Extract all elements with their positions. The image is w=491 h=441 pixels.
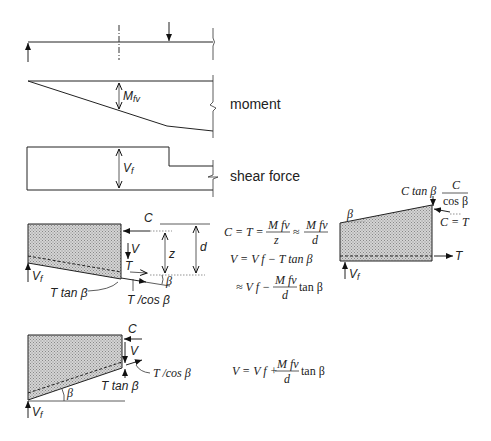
- beta-arc: [62, 389, 64, 401]
- leader-T-tan: [88, 282, 118, 291]
- eq3-den: d: [282, 288, 289, 302]
- label-cos-beta: cos β: [443, 194, 468, 208]
- label-C: C: [144, 211, 153, 225]
- beta-arc: [162, 275, 163, 284]
- eq3-right: tan β: [299, 280, 323, 294]
- shear-diagram: Vf shear force: [27, 147, 300, 197]
- beam-diagram: [28, 22, 215, 62]
- eq1-den2: d: [312, 233, 319, 247]
- C-arrow: [434, 209, 450, 212]
- label-C-eq-T: C = T: [440, 215, 470, 229]
- free-body-section-1: C V T z d β Vf T tan β T /cos β: [28, 211, 210, 307]
- label-C-over: C: [452, 178, 461, 192]
- eq4-right: tan β: [301, 364, 325, 378]
- label-T: T: [125, 259, 134, 273]
- eq4-den: d: [284, 372, 291, 386]
- eq1-den1: z: [273, 233, 279, 247]
- eq4-left: V = V f +: [232, 364, 278, 378]
- label-Vf: Vf: [349, 267, 361, 282]
- T-cos-arrow: [126, 360, 142, 365]
- break-line: [210, 75, 216, 138]
- label-T-cos-beta: T /cos β: [127, 293, 170, 307]
- shear-moment-diagram: Mfv moment Vf shear force C V T z d β Vf: [0, 0, 491, 441]
- shear-outline: [27, 147, 213, 190]
- eq3-num: M fv: [274, 273, 297, 287]
- label-V: V: [130, 344, 139, 358]
- break-line: [213, 28, 215, 60]
- equations-section-3: V = V f + M fv d tan β: [232, 357, 325, 386]
- label-Vf: Vf: [32, 405, 44, 420]
- eq4-num: M fv: [276, 357, 299, 371]
- tension-force-arrow: [121, 278, 146, 282]
- label-V: V: [131, 242, 140, 256]
- shear-caption: shear force: [230, 168, 300, 184]
- label-C: C: [128, 322, 137, 336]
- label-C-tan-beta: C tan β: [401, 184, 436, 198]
- label-T-tan-beta: T tan β: [101, 379, 139, 393]
- eq1-left: C = T =: [224, 225, 264, 239]
- label-T-cos-beta: T /cos β: [153, 366, 191, 380]
- label-z: z: [168, 247, 175, 261]
- moment-diagram: Mfv moment: [28, 75, 281, 138]
- eq1-num1: M fv: [267, 218, 290, 232]
- free-body-section-2: β C tan β C cos β C = T T Vf: [340, 178, 470, 282]
- eq1-num2: M fv: [305, 218, 328, 232]
- label-beta: β: [346, 207, 353, 221]
- label-T-tan-beta: T tan β: [50, 286, 88, 300]
- section-body: [340, 205, 432, 261]
- moment-label-M: Mfv: [123, 89, 141, 104]
- equations-section-1: C = T = M fv z ≈ M fv d V = V f − T tan …: [224, 218, 328, 302]
- eq3-left: ≈ V f −: [236, 280, 270, 294]
- moment-curve: [28, 81, 213, 131]
- section-body: [28, 224, 121, 279]
- label-d: d: [200, 240, 207, 254]
- shear-label-Vf: Vf: [123, 161, 135, 176]
- eq1-approx: ≈: [293, 225, 300, 239]
- leader-T-cos: [136, 365, 150, 373]
- eq2: V = V f − T tan β: [230, 252, 313, 266]
- label-T: T: [455, 249, 464, 263]
- label-beta: β: [165, 274, 172, 288]
- label-Vf: Vf: [32, 269, 44, 284]
- free-body-section-3: C V T /cos β T tan β β Vf: [28, 322, 191, 420]
- T-arrow: [130, 272, 147, 273]
- label-beta: β: [66, 386, 73, 400]
- moment-caption: moment: [230, 96, 281, 112]
